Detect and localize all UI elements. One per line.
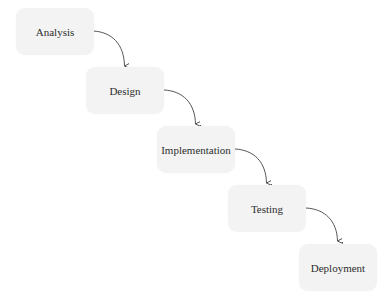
step-implementation: Implementation: [157, 126, 235, 173]
step-deployment: Deployment: [299, 244, 377, 291]
step-design: Design: [86, 67, 164, 114]
step-label: Design: [109, 85, 140, 97]
step-label: Deployment: [311, 262, 365, 274]
step-label: Testing: [251, 203, 283, 215]
arrow-design-to-implementation: [164, 90, 196, 124]
arrow-analysis-to-design: [93, 31, 125, 66]
arrow-testing-to-deployment: [306, 208, 338, 241]
step-analysis: Analysis: [16, 8, 94, 55]
step-label: Analysis: [36, 26, 75, 38]
arrow-implementation-to-testing: [235, 149, 267, 183]
step-testing: Testing: [228, 185, 306, 232]
waterfall-diagram: Analysis Design Implementation Testing D…: [0, 0, 378, 292]
step-label: Implementation: [161, 144, 231, 156]
